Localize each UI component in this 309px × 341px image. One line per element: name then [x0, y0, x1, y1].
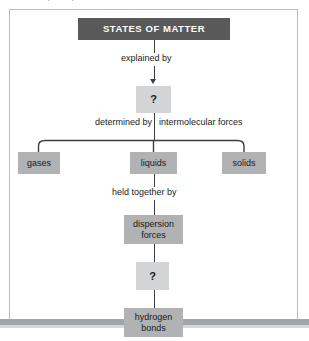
node-dispersion-forces-label-line2: forces — [141, 230, 166, 240]
node-unknown-top-label: ? — [150, 93, 157, 105]
node-hydrogen-bonds-label-line1: hydrogen — [135, 312, 173, 322]
node-states-of-matter-label: STATES OF MATTER — [103, 24, 205, 35]
connector-held-together-by-to-dispersion — [154, 200, 155, 215]
arrowhead-down-to-unknown-top — [150, 79, 156, 84]
branch-bracket-three-way — [37, 134, 252, 154]
connector-liquids-to-held-together-by — [154, 174, 155, 187]
concept-map-frame: STATES OF MATTER explained by ? determin… — [9, 9, 298, 327]
connector-dispersion-to-unknown-bottom — [154, 244, 155, 262]
edge-label-intermolecular-forces: intermolecular forces — [157, 117, 245, 127]
page-top-bleed-text: concept map of the states of matter — [0, 0, 309, 9]
node-unknown-bottom-label: ? — [149, 270, 156, 282]
connector-title-to-explained-by — [154, 40, 155, 53]
edge-label-held-together-by: held together by — [110, 187, 179, 197]
node-unknown-bottom: ? — [136, 262, 169, 290]
node-states-of-matter: STATES OF MATTER — [78, 18, 230, 40]
node-gases: gases — [18, 152, 60, 174]
diagram-page: concept map of the states of matter STAT… — [0, 0, 309, 341]
node-hydrogen-bonds: hydrogen bonds — [124, 308, 183, 337]
page-top-bleed-text-label: concept map of the states of matter — [22, 0, 174, 1]
node-dispersion-forces: dispersion forces — [124, 215, 183, 244]
node-solids-label: solids — [232, 158, 255, 168]
edge-label-explained-by: explained by — [119, 53, 174, 63]
node-liquids: liquids — [130, 152, 177, 174]
edge-label-divider — [154, 116, 155, 130]
node-liquids-label: liquids — [141, 158, 167, 168]
node-dispersion-forces-label-line1: dispersion — [133, 219, 174, 229]
node-gases-label: gases — [27, 158, 51, 168]
connector-unknown-bottom-to-hydrogen-bonds — [154, 290, 155, 308]
node-hydrogen-bonds-label-line2: bonds — [141, 323, 166, 333]
node-unknown-top: ? — [136, 86, 171, 113]
node-solids: solids — [222, 152, 266, 174]
edge-label-determined-by: determined by — [93, 117, 154, 127]
